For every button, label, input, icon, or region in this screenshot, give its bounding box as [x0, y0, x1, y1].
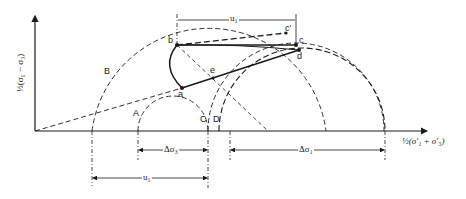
circle-C — [208, 43, 384, 131]
label-c-prime: c′ — [285, 24, 291, 33]
y-axis-label: ½(σ₁ − σ₃) — [15, 54, 25, 92]
stress-path-bc-prime — [177, 33, 286, 45]
stress-path-ab — [170, 45, 182, 88]
dim-label-delta-sigma1: Δσ₁ — [298, 145, 314, 154]
label-b: b — [168, 36, 173, 45]
label-e: e — [210, 66, 215, 75]
label-d: d — [297, 52, 302, 61]
stress-path-ad — [182, 50, 299, 88]
label-circle-A: A — [133, 109, 139, 118]
label-circle-D: D — [213, 115, 220, 124]
label-circle-B: B — [104, 67, 110, 76]
x-axis-label: ½(σ′₁ + σ′₃) — [402, 137, 444, 146]
pole-line — [177, 45, 268, 131]
label-a: a — [178, 90, 183, 99]
dim-label-u1-top: u₁ — [229, 14, 239, 23]
dim-label-delta-sigma3: Δσ₃ — [163, 145, 179, 154]
diagram-canvas — [0, 0, 466, 199]
failure-envelope-line — [35, 88, 182, 131]
circle-A — [138, 96, 208, 131]
point-e — [211, 76, 214, 79]
label-c: c — [299, 36, 304, 45]
dim-label-u1-bottom: u₁ — [142, 173, 152, 182]
mohr-diagram: ½(σ₁ − σ₃) ½(σ′₁ + σ′₃) a b c d c′ e B A… — [0, 0, 466, 199]
label-circle-C: C — [200, 115, 207, 124]
